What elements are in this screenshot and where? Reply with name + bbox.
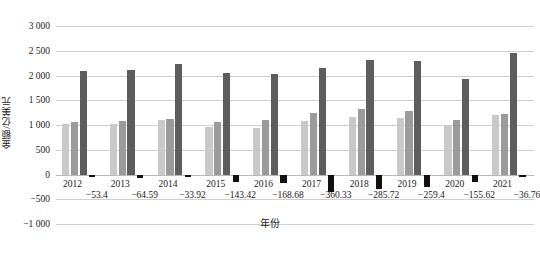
y-axis-tick-label: 500 (6, 145, 50, 155)
bar-negative-2021 (519, 175, 525, 177)
bar-negative-2013 (137, 175, 143, 178)
bar-series-3-2012 (80, 71, 87, 174)
bar-negative-2018 (376, 175, 382, 189)
y-axis-tick-label: 2 000 (6, 71, 50, 81)
x-axis-tick-label-2014: 2014 (159, 179, 178, 189)
bar-chart: 金额/亿美元 年份 3 0002 5002 0001 5001 0005000−… (0, 0, 540, 255)
bar-series-1-2019 (397, 118, 404, 175)
data-label-negative-2019: −259.4 (418, 190, 445, 200)
data-label-negative-2021: −36.76 (514, 190, 540, 200)
bar-negative-2012 (89, 175, 95, 178)
data-label-negative-2013: −64.59 (131, 190, 158, 200)
bar-series-2-2021 (501, 114, 508, 174)
zero-axis-line (56, 175, 534, 176)
data-label-negative-2020: −155.62 (463, 190, 494, 200)
y-axis-tick-label: 3 000 (6, 21, 50, 31)
y-axis-tick-label: −1 000 (6, 219, 50, 229)
data-label-negative-2017: −360.33 (320, 190, 351, 200)
bar-series-3-2021 (510, 53, 517, 174)
data-label-negative-2012: −53.4 (86, 190, 108, 200)
bar-series-2-2014 (166, 119, 173, 175)
bar-series-1-2018 (349, 117, 356, 175)
bar-negative-2019 (424, 175, 430, 188)
gridline (56, 51, 534, 52)
bar-series-1-2013 (110, 124, 117, 174)
y-axis-tick-label: 0 (6, 170, 50, 180)
y-axis-tick-label: 1 000 (6, 120, 50, 130)
bar-series-1-2017 (301, 121, 308, 175)
bar-negative-2016 (280, 175, 286, 183)
x-axis-tick-label-2015: 2015 (206, 179, 225, 189)
bar-series-1-2012 (62, 124, 69, 174)
bar-series-2-2012 (71, 122, 78, 175)
gridline (56, 26, 534, 27)
x-axis-tick-label-2013: 2013 (111, 179, 130, 189)
bar-series-3-2013 (127, 70, 134, 174)
x-axis-title: 年份 (0, 215, 540, 230)
bar-series-3-2018 (366, 60, 373, 175)
x-axis-tick-label-2019: 2019 (398, 179, 417, 189)
bar-series-2-2017 (310, 113, 317, 174)
x-axis-tick-label-2012: 2012 (63, 179, 82, 189)
bar-series-1-2021 (492, 115, 499, 174)
bar-series-3-2017 (319, 68, 326, 174)
bar-negative-2015 (233, 175, 239, 182)
bar-negative-2020 (472, 175, 478, 183)
bar-series-3-2016 (271, 74, 278, 175)
y-axis-tick-label: 2 500 (6, 46, 50, 56)
y-axis-tick-label: −500 (6, 194, 50, 204)
bar-series-3-2014 (175, 64, 182, 175)
bar-series-3-2020 (462, 79, 469, 174)
bar-series-2-2016 (262, 120, 269, 174)
bar-series-2-2019 (405, 111, 412, 175)
x-axis-tick-label-2017: 2017 (302, 179, 321, 189)
data-label-negative-2018: −285.72 (368, 190, 399, 200)
x-axis-tick-label-2020: 2020 (445, 179, 464, 189)
y-axis-tick-label: 1 500 (6, 95, 50, 105)
bar-series-1-2014 (158, 120, 165, 174)
bar-series-2-2018 (358, 109, 365, 175)
bar-series-2-2020 (453, 120, 460, 174)
bar-series-1-2015 (205, 127, 212, 175)
bar-series-1-2020 (444, 125, 451, 175)
bar-series-2-2013 (119, 121, 126, 174)
bar-negative-2014 (185, 175, 191, 177)
bar-series-3-2019 (414, 61, 421, 174)
x-axis-tick-label-2018: 2018 (350, 179, 369, 189)
bar-series-3-2015 (223, 73, 230, 174)
x-axis-tick-label-2016: 2016 (254, 179, 273, 189)
data-label-negative-2014: −33.92 (179, 190, 206, 200)
bar-series-1-2016 (253, 128, 260, 175)
x-axis-tick-label-2021: 2021 (493, 179, 512, 189)
data-label-negative-2016: −168.68 (272, 190, 303, 200)
bar-series-2-2015 (214, 122, 221, 175)
data-label-negative-2015: −143.42 (224, 190, 255, 200)
